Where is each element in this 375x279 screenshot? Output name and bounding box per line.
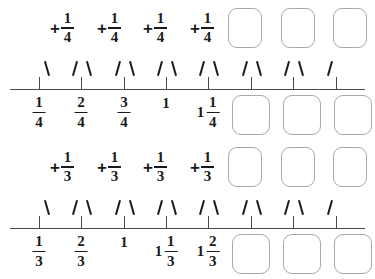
expression-term: +14 (50, 10, 74, 46)
fraction: 14 (154, 11, 167, 46)
exercise-quarters: +14+14+14+14+++1424341114 (0, 0, 375, 139)
jump-arc-left (327, 200, 333, 215)
fraction-numerator: 1 (203, 150, 213, 166)
fraction-denominator: 4 (203, 29, 213, 45)
answer-box-expression[interactable] (333, 8, 367, 48)
tick-mark (251, 77, 252, 89)
fraction-numerator: 1 (156, 150, 166, 166)
fraction: 14 (206, 95, 219, 130)
fraction-numerator: 1 (110, 150, 120, 166)
tick-label: 23 (75, 234, 88, 269)
jump-arc-right (298, 61, 304, 76)
fraction-denominator: 4 (156, 29, 166, 45)
jump-arc-right (129, 200, 135, 215)
fraction: 13 (33, 234, 46, 269)
tick-mark (293, 216, 294, 228)
plus-sign: + (97, 159, 107, 176)
fraction-numerator: 1 (166, 234, 176, 250)
tick-mark (293, 77, 294, 89)
answer-box-expression[interactable] (228, 147, 262, 187)
fraction-numerator: 2 (76, 234, 86, 250)
tick-mark (39, 216, 40, 228)
tick-mark (208, 216, 209, 228)
answer-box-expression[interactable] (228, 8, 262, 48)
fraction-denominator: 4 (110, 29, 120, 45)
answer-box-number-line[interactable] (334, 95, 372, 135)
jump-arc-left (199, 200, 205, 215)
answer-box-expression[interactable] (281, 8, 315, 48)
fraction-numerator: 1 (203, 11, 213, 27)
fraction-denominator: 4 (119, 114, 129, 130)
fraction-denominator: 4 (208, 114, 218, 130)
answer-box-number-line[interactable] (334, 234, 372, 274)
tick-mark (166, 77, 167, 89)
answer-box-number-line[interactable] (283, 95, 321, 135)
tick-mark (39, 77, 40, 89)
fraction: 13 (164, 234, 177, 269)
fraction-denominator: 3 (76, 253, 86, 269)
plus-sign: + (50, 159, 60, 176)
whole-number: 1 (120, 234, 128, 250)
fraction-denominator: 3 (110, 168, 120, 184)
number-line-thirds: 13231113123 (10, 228, 365, 229)
fraction-denominator: 3 (166, 253, 176, 269)
plus-sign: + (143, 159, 153, 176)
mixed-number: 123 (197, 234, 220, 269)
worksheet: +14+14+14+14+++1424341114+13+13+13+13+++… (0, 0, 375, 279)
tick-label: 34 (118, 95, 131, 130)
fraction: 14 (201, 11, 214, 46)
fraction-numerator: 1 (156, 11, 166, 27)
tick-label: 114 (197, 95, 220, 130)
jump-arc-right (44, 61, 50, 76)
jump-arc-right (256, 61, 262, 76)
plus-sign: + (143, 20, 153, 37)
jump-arc-right (86, 61, 92, 76)
jump-arc-right (129, 61, 135, 76)
fraction: 14 (33, 95, 46, 130)
expression-term: +14 (97, 10, 121, 46)
answer-box-number-line[interactable] (232, 95, 270, 135)
plus-sign: + (50, 20, 60, 37)
jump-arc-left (242, 61, 248, 76)
tick-mark (81, 216, 82, 228)
answer-box-number-line[interactable] (283, 234, 321, 274)
answer-box-number-line[interactable] (232, 234, 270, 274)
jump-arc-right (213, 200, 219, 215)
jump-arc-left (284, 200, 290, 215)
fraction-denominator: 4 (34, 114, 44, 130)
fraction-numerator: 1 (63, 11, 73, 27)
expression-term: +13 (97, 149, 121, 185)
fraction: 34 (118, 95, 131, 130)
answer-box-expression[interactable] (333, 147, 367, 187)
fraction: 23 (75, 234, 88, 269)
tick-mark (251, 216, 252, 228)
mixed-whole: 1 (197, 105, 205, 120)
answer-box-expression[interactable] (281, 147, 315, 187)
fraction: 13 (61, 150, 74, 185)
tick-label: 13 (33, 234, 46, 269)
fraction: 14 (61, 11, 74, 46)
tick-mark (336, 216, 337, 228)
tick-label: 1 (120, 234, 128, 250)
tick-mark (336, 77, 337, 89)
exercise-thirds: +13+13+13+13+++13231113123 (0, 139, 375, 279)
plus-sign: + (190, 159, 200, 176)
expression-term: +14 (190, 10, 214, 46)
fraction-denominator: 3 (203, 168, 213, 184)
expression-row-thirds: +13+13+13+13+++ (0, 143, 375, 191)
jump-arc-right (171, 200, 177, 215)
jump-arc-left (327, 61, 333, 76)
tick-mark (124, 216, 125, 228)
fraction-numerator: 1 (208, 95, 218, 111)
jump-arc-left (115, 200, 121, 215)
tick-label: 123 (197, 234, 220, 269)
jump-arc-left (199, 61, 205, 76)
fraction-numerator: 3 (119, 95, 129, 111)
plus-sign: + (190, 20, 200, 37)
jump-arc-right (213, 61, 219, 76)
jump-arc-left (72, 61, 78, 76)
fraction-denominator: 3 (156, 168, 166, 184)
fraction-numerator: 1 (63, 150, 73, 166)
fraction-numerator: 1 (34, 234, 44, 250)
tick-label: 1 (162, 95, 170, 111)
